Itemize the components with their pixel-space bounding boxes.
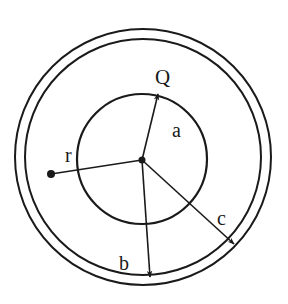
label-radius-b: b [119, 252, 129, 274]
label-radius-a: a [172, 119, 181, 141]
concentric-spheres-diagram: Q a r c b [0, 0, 288, 304]
radius-a-arrow [142, 94, 158, 160]
diagram-canvas: Q a r c b [0, 0, 288, 304]
radius-c-arrow [142, 160, 234, 244]
field-point [47, 170, 55, 178]
label-distance-r: r [65, 144, 72, 166]
label-radius-c: c [217, 207, 226, 229]
label-charge-q: Q [155, 65, 170, 89]
radius-b-arrow [142, 160, 150, 277]
center-point [139, 157, 146, 164]
